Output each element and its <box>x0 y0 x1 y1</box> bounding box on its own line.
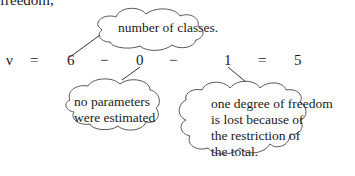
equation-term-0: 0 <box>136 52 144 69</box>
equation-equals: = <box>30 52 38 69</box>
equation-lhs: ν <box>6 52 13 69</box>
equation-minus: − <box>100 52 108 69</box>
equation-equals: = <box>258 52 266 69</box>
equation-minus: − <box>169 52 177 69</box>
annotation-parameters: no parameters were estimated <box>74 94 155 126</box>
annotation-classes: number of classes. <box>118 20 218 36</box>
equation-result: 5 <box>294 52 302 69</box>
equation-term-6: 6 <box>67 52 75 69</box>
equation-term-1: 1 <box>224 52 232 69</box>
annotation-restriction: one degree of freedom is lost because of… <box>211 96 333 160</box>
